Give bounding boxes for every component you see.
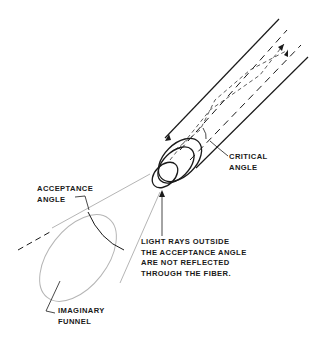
light-rays	[170, 44, 288, 160]
acceptance-angle-label: ACCEPTANCE ANGLE	[37, 184, 93, 205]
imaginary-funnel-label: IMAGINARY FUNNEL	[58, 306, 105, 327]
diagram-graphic	[0, 0, 318, 341]
ray-arrow-2	[284, 50, 288, 57]
critical-angle-arc	[203, 128, 206, 139]
fiber-end-rings	[147, 130, 209, 192]
fiber-core	[180, 30, 301, 160]
acceptance-angle-arc	[88, 212, 124, 250]
fiber-cladding	[165, 19, 308, 168]
critical-angle-leader	[210, 141, 228, 156]
fiber-diagram: CRITICAL ANGLE ACCEPTANCE ANGLE LIGHT RA…	[0, 0, 318, 341]
axis-dashed-left	[18, 232, 50, 250]
outside-rays-arrow	[159, 190, 165, 197]
critical-angle-label: CRITICAL ANGLE	[229, 152, 268, 173]
light-rays-note: LIGHT RAYS OUTSIDE THE ACCEPTANCE ANGLE …	[141, 237, 247, 279]
